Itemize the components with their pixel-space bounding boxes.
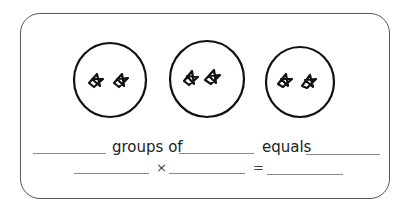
equals-label: equals: [262, 139, 311, 155]
total-blank[interactable]: [306, 154, 380, 155]
star-icon: [184, 71, 198, 85]
factor-2-blank[interactable]: [169, 173, 245, 174]
group-circle-2: [170, 41, 244, 117]
star-icon: [302, 75, 316, 88]
star-icon: [89, 74, 103, 87]
groups-count-blank[interactable]: [33, 153, 106, 154]
times-symbol: ×: [156, 161, 167, 175]
groups-of-label: groups of: [112, 139, 183, 155]
product-blank[interactable]: [267, 174, 343, 175]
groups-illustration: [0, 0, 412, 208]
group-circle-1: [74, 43, 146, 117]
star-icon: [205, 70, 220, 84]
factor-1-blank[interactable]: [74, 173, 149, 174]
star-icon: [114, 74, 128, 87]
star-icon: [278, 74, 292, 87]
group-size-blank[interactable]: [179, 153, 254, 154]
group-circle-3: [266, 47, 334, 117]
equals-symbol: =: [253, 161, 264, 175]
